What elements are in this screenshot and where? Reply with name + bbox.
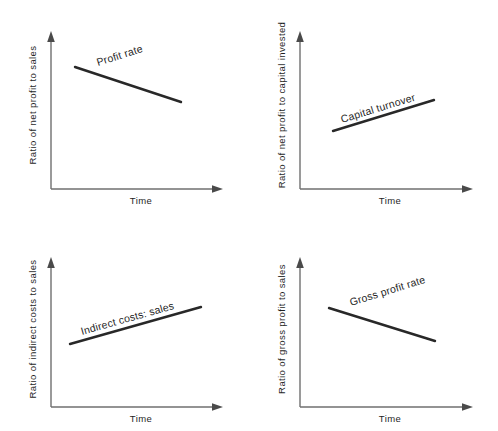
x-axis-arrowhead-icon [462,185,473,193]
y-axis-title-indirect-costs: Ratio of indirect costs to sales [27,260,38,399]
x-axis-title-indirect-costs: Time [130,413,152,424]
panel-capital-turnover: Capital turnover Ratio of net profit to … [276,22,473,206]
y-axis-title-gross-profit-rate: Ratio of gross profit to sales [276,264,287,394]
y-axis-arrowhead-icon [296,31,304,42]
four-panel-chart-figure: Profit rate Ratio of net profit to sales… [0,0,498,431]
panel-gross-profit-rate: Gross profit rate Ratio of gross profit … [276,257,473,424]
series-label-profit-rate: Profit rate [95,42,144,68]
panel-profit-rate: Profit rate Ratio of net profit to sales… [27,31,223,206]
x-axis-arrowhead-icon [462,403,473,411]
trend-line-gross-profit-rate [329,308,435,341]
series-label-gross-profit-rate: Gross profit rate [348,273,427,308]
y-axis-arrowhead-icon [47,31,55,42]
x-axis-title-gross-profit-rate: Time [379,413,401,424]
y-axis-arrowhead-icon [296,257,304,268]
panel-indirect-costs: Indirect costs: sales Ratio of indirect … [27,257,223,424]
x-axis-arrowhead-icon [212,185,223,193]
x-axis-arrowhead-icon [212,403,223,411]
x-axis-title-capital-turnover: Time [379,195,401,206]
x-axis-title-profit-rate: Time [130,195,152,206]
y-axis-title-profit-rate: Ratio of net profit to sales [27,46,38,165]
trend-line-profit-rate [75,67,181,102]
y-axis-arrowhead-icon [47,257,55,268]
y-axis-title-capital-turnover: Ratio of net profit to capital invested [276,22,287,189]
